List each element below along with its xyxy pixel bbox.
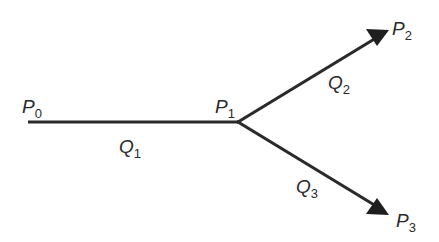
node-label-p0: P0	[22, 96, 42, 121]
edge-label-q2: Q2	[328, 72, 350, 97]
node-label-p3: P3	[396, 210, 416, 235]
edge-label-q1: Q1	[119, 136, 141, 161]
node-label-p2: P2	[392, 18, 412, 43]
edge-label-q3: Q3	[296, 176, 318, 201]
flow-diagram: P0 P1 P2 P3 Q1 Q2 Q3	[0, 0, 439, 242]
node-label-p1: P1	[215, 96, 235, 121]
edge-q2	[238, 38, 376, 122]
